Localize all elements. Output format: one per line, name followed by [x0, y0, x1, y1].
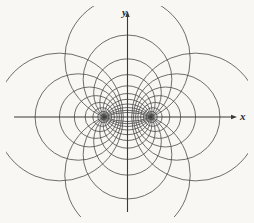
y-axis-label: y: [120, 6, 127, 18]
figure-container: x y: [0, 0, 254, 223]
right-focus-point: [150, 116, 153, 119]
x-axis-label: x: [239, 110, 246, 122]
apollonian-circles-diagram: x y: [0, 0, 254, 223]
left-focus-point: [103, 116, 106, 119]
